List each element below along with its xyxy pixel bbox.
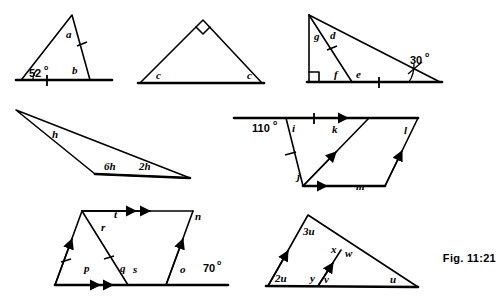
transversal-k-arrow-seg-5 (303, 152, 336, 186)
label-k: k (332, 123, 338, 135)
degree-symbol-110: o (273, 119, 277, 126)
triangle-4-base (95, 174, 190, 178)
right-angle-marker-3 (309, 72, 319, 82)
label-s: s (132, 263, 137, 275)
label-angle-30: 30 (410, 54, 422, 66)
label-l: l (404, 124, 408, 136)
label-angle-70: 70 (203, 262, 215, 274)
label-f: f (334, 68, 339, 80)
label-q: q (120, 262, 126, 274)
degree-symbol-70: o (217, 259, 221, 266)
label-2u: 2u (274, 272, 287, 284)
label-6h: 6h (104, 160, 116, 172)
label-i: i (292, 122, 296, 134)
label-w: w (345, 247, 353, 259)
label-d: d (330, 29, 336, 41)
degree-symbol-30: o (425, 51, 429, 58)
label-2h: 2h (138, 160, 151, 172)
label-3u: 3u (302, 225, 315, 237)
label-y: y (308, 272, 315, 284)
right-angle-marker-2 (196, 27, 210, 34)
label-m: m (356, 180, 365, 192)
label-angle-110: 110 (252, 122, 270, 134)
label-o: o (180, 263, 186, 275)
label-h: h (52, 128, 58, 140)
label-c-left: c (156, 69, 161, 81)
panel-4-thin-triangle (16, 110, 190, 178)
transversal-l-arrow-seg-5 (385, 151, 402, 186)
label-c-right: c (247, 69, 252, 81)
tick-mark-right-side-1 (77, 42, 87, 46)
right-side-arrow-seg-6 (166, 239, 183, 285)
label-n: n (195, 210, 201, 222)
label-b: b (72, 64, 78, 76)
label-t: t (114, 208, 118, 220)
triangle-7-base (266, 286, 418, 287)
label-angle-52: 52 (29, 67, 41, 79)
label-e: e (356, 68, 361, 80)
label-p: p (83, 262, 90, 274)
label-a: a (66, 28, 72, 40)
label-v: v (324, 273, 329, 285)
geometry-figure: a b 52 o c c g d f e 30 o h 6h 2h 110 o … (0, 0, 500, 300)
label-r: r (101, 221, 106, 233)
tick-mark-left-6 (61, 259, 71, 262)
label-x: x (330, 243, 337, 255)
figure-caption: Fig. 11:21 (443, 252, 496, 264)
panel-3-right-triangle-cevian (307, 15, 442, 88)
geometry-canvas: a b 52 o c c g d f e 30 o h 6h 2h 110 o … (0, 0, 500, 300)
label-g: g (313, 30, 320, 42)
label-u: u (390, 273, 396, 285)
degree-symbol-52: o (44, 64, 48, 71)
triangle-4-sides (16, 110, 190, 178)
